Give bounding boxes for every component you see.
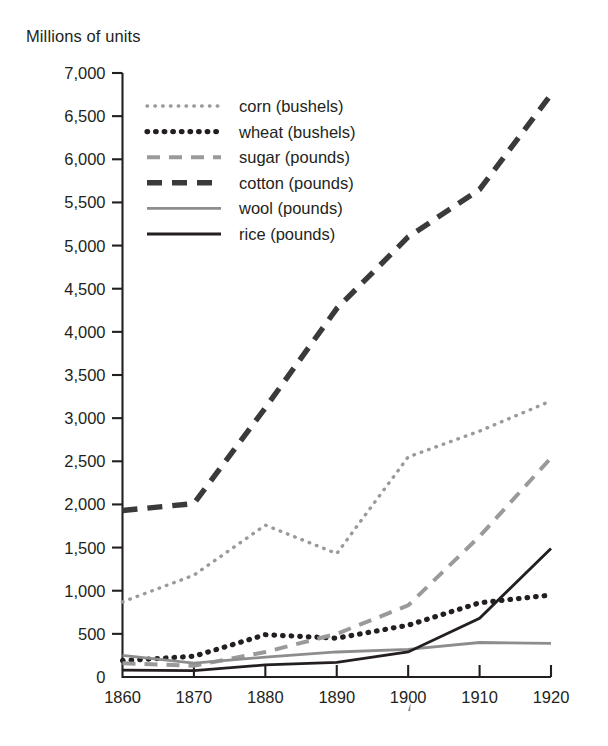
x-tick-label: 1890 [318,688,355,706]
x-tick-label-layer: 1860187018801890190019101920 [104,688,569,706]
legend-label-cotton: cotton (pounds) [239,174,354,192]
x-tick-label: 1910 [461,688,498,706]
y-tick-label: 5,500 [64,193,105,211]
series-line-sugar [123,458,552,666]
legend-label-rice: rice (pounds) [239,225,335,243]
line-chart-plot: 05001,0001,5002,0002,5003,0003,5004,0004… [0,0,608,746]
y-tick-label: 7,000 [64,64,105,82]
series-line-corn [123,401,552,602]
y-tick-label: 3,000 [64,409,105,427]
y-tick-label: 4,500 [64,280,105,298]
y-tick-label: 6,500 [64,107,105,125]
y-tick-label: 2,500 [64,452,105,470]
x-tick-label: 1920 [533,688,570,706]
y-tick-label: 6,000 [64,150,105,168]
y-tick-label: 2,000 [64,495,105,513]
legend-label-sugar: sugar (pounds) [239,148,350,166]
legend-label-corn: corn (bushels) [239,97,344,115]
y-tick-label: 5,000 [64,237,105,255]
y-tick-label: 1,500 [64,539,105,557]
x-tick-label: 1880 [247,688,284,706]
y-tick-label: 500 [78,625,106,643]
y-tick-label: 4,000 [64,323,105,341]
legend-label-wool: wool (pounds) [238,199,343,217]
y-tick-label: 3,500 [64,366,105,384]
chart-container: Millions of units 05001,0001,5002,0002,5… [0,0,608,746]
series-line-wool [123,642,552,663]
y-tick-label-layer: 05001,0001,5002,0002,5003,0003,5004,0004… [64,64,105,686]
x-tick-label: 1870 [176,688,213,706]
y-tick-label: 1,000 [64,582,105,600]
chart-legend: corn (bushels)wheat (bushels)sugar (poun… [147,97,355,243]
y-tick-label: 0 [96,668,105,686]
legend-label-wheat: wheat (bushels) [238,123,355,141]
x-tick-label: 1900 [390,688,427,706]
x-tick-label: 1860 [104,688,141,706]
